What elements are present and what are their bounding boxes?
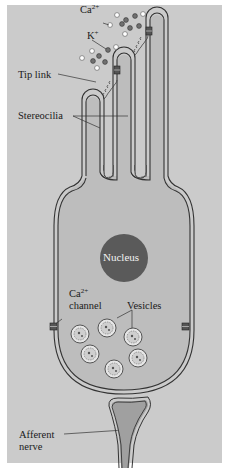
afferent-nerve	[109, 397, 151, 468]
tip-link	[103, 80, 117, 99]
hair-cell-figure: Ca2+ K+ Tip link Stereocilia Nucleus Ca2…	[0, 0, 229, 468]
vesicle	[98, 319, 116, 337]
transduction-channel	[146, 27, 152, 35]
calcium-channel	[50, 323, 57, 330]
ca-channel-label-line2: channel	[69, 300, 102, 311]
calcium-channel	[182, 323, 189, 330]
vesicle	[71, 325, 89, 343]
vesicles-label: Vesicles	[127, 300, 161, 311]
stereocilia-label: Stereocilia	[18, 110, 63, 121]
tip-link-label: Tip link	[18, 69, 51, 80]
vesicle	[124, 328, 142, 346]
vesicle	[81, 345, 99, 363]
calcium-ion-label: Ca2+	[80, 4, 99, 15]
ca-channel-label-line1: Ca2+	[69, 288, 88, 299]
afferent-nerve-label-line2: nerve	[19, 441, 42, 452]
vesicle	[105, 360, 123, 378]
nucleus-label: Nucleus	[103, 252, 139, 263]
vesicle	[129, 349, 147, 367]
afferent-nerve-label-line1: Afferent	[19, 429, 54, 440]
transduction-channel	[114, 66, 120, 74]
potassium-ion-label: K+	[87, 30, 99, 41]
